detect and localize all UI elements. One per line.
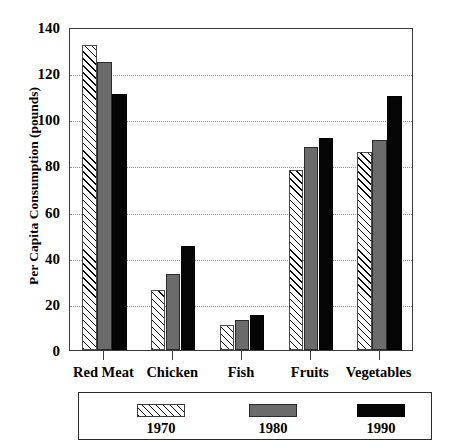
y-tick-label: 60 (0, 204, 60, 221)
hatched-swatch (137, 404, 185, 417)
x-axis-tick (241, 351, 242, 360)
legend-item[interactable]: 1980 (219, 393, 327, 439)
y-tick-label: 140 (0, 20, 60, 37)
y-tick-label: 100 (0, 112, 60, 129)
x-axis-tick (103, 351, 104, 360)
bar[interactable] (387, 96, 402, 350)
legend-label: 1970 (107, 420, 215, 437)
legend-item[interactable]: 1970 (107, 393, 215, 439)
x-axis-label: Vegetables (314, 364, 444, 381)
x-axis-tick (379, 351, 380, 360)
legend-item[interactable]: 1990 (327, 393, 435, 439)
plot-area (69, 28, 413, 351)
legend-label: 1980 (219, 420, 327, 437)
gray-swatch (249, 404, 297, 417)
black-swatch (357, 404, 405, 417)
y-tick-label: 80 (0, 158, 60, 175)
bar-group (70, 29, 414, 350)
legend: 197019801990 (78, 392, 432, 440)
y-tick-label: 120 (0, 66, 60, 83)
y-tick-label: 20 (0, 296, 60, 313)
bar[interactable] (357, 152, 372, 350)
legend-label: 1990 (327, 420, 435, 437)
y-tick-label: 0 (0, 343, 60, 360)
x-axis-tick (310, 351, 311, 360)
y-tick-label: 40 (0, 250, 60, 267)
x-axis-tick (172, 351, 173, 360)
bar-chart: Per Capita Consumption (pounds) 02040608… (0, 0, 452, 447)
bar[interactable] (372, 140, 387, 350)
